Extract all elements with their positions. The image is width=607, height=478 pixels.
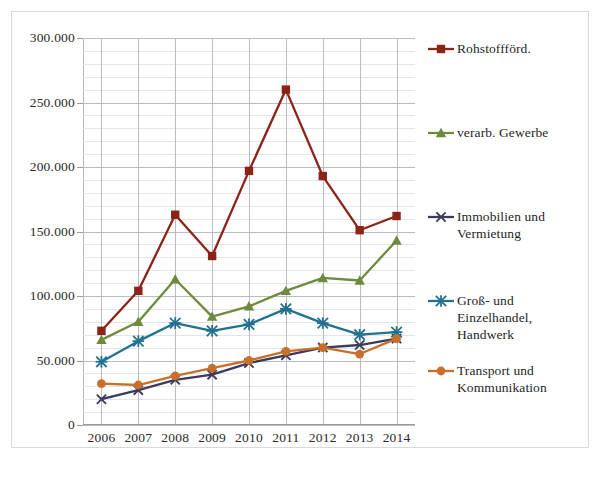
data-point-marker-asterisk [169,317,181,329]
data-point-marker-circle [318,343,327,352]
series-line [97,334,401,389]
y-axis-tick-mark [77,425,83,426]
data-point-marker-square [208,252,216,260]
gridline-major [83,425,415,426]
legend-label: verarb. Gewerbe [457,124,548,141]
x-axis-tick-label: 2011 [272,430,299,446]
data-point-marker-triangle [170,274,180,283]
data-point-marker-circle [97,379,106,388]
data-point-marker-triangle [96,335,106,344]
legend-item[interactable]: verarb. Gewerbe [428,124,548,141]
data-point-marker-asterisk [206,325,218,337]
legend-marker-square-icon [428,41,454,57]
legend-marker-cross-icon [428,209,454,225]
x-axis-tick-label: 2012 [309,430,337,446]
data-point-marker-square [134,287,142,295]
y-axis-tick-labels: 050.000100.000150.000200.000250.000300.0… [0,38,75,425]
legend-item[interactable]: Transport und Kommunikation [428,362,547,396]
chart-container: 050.000100.000150.000200.000250.000300.0… [0,0,607,478]
data-point-marker-asterisk [280,303,292,315]
y-axis-tick-label: 200.000 [30,159,75,175]
series-line [97,85,401,335]
legend-label: Immobilien und Vermietung [457,208,545,242]
x-axis-tick-labels: 200620072008200920102011201220132014 [83,430,415,452]
x-axis-tick-label: 2013 [346,430,374,446]
data-point-marker-square [319,172,327,180]
legend-label: Transport und Kommunikation [457,362,547,396]
y-axis-tick-mark [77,103,83,104]
x-axis-tick-label: 2006 [88,430,116,446]
legend-label: Rohstoffförd. [457,40,531,57]
x-axis-tick-label: 2007 [124,430,152,446]
data-point-marker-circle [437,367,446,376]
data-point-marker-square [282,85,290,93]
data-point-marker-asterisk [243,319,255,331]
y-axis-tick-label: 250.000 [30,95,75,111]
data-point-marker-circle [171,372,180,381]
y-axis-tick-mark [77,167,83,168]
data-point-marker-asterisk [435,295,447,307]
y-axis-tick-label: 100.000 [30,288,75,304]
y-axis-tick-label: 50.000 [37,353,75,369]
legend-marker-circle-icon [428,363,454,379]
y-axis-tick-label: 300.000 [30,30,75,46]
data-point-marker-asterisk [96,356,108,368]
data-point-marker-square [171,211,179,219]
data-point-marker-square [437,45,445,53]
data-point-marker-circle [392,334,401,343]
legend-marker-asterisk-icon [428,293,454,309]
y-axis-tick-label: 150.000 [30,224,75,240]
data-point-marker-asterisk [354,329,366,341]
legend-label: Groß- und Einzelhandel, Handwerk [457,292,532,343]
data-point-marker-circle [208,364,217,373]
x-axis-tick-label: 2008 [161,430,189,446]
data-point-marker-circle [355,350,364,359]
y-axis-tick-label: 0 [68,417,75,433]
legend-item[interactable]: Immobilien und Vermietung [428,208,545,242]
x-axis-tick-label: 2014 [383,430,411,446]
y-axis-tick-mark [77,296,83,297]
data-point-marker-square [392,212,400,220]
data-point-marker-square [355,226,363,234]
data-point-marker-circle [281,347,290,356]
y-axis-tick-mark [77,232,83,233]
legend-marker-triangle-icon [428,125,454,141]
legend-item[interactable]: Rohstoffförd. [428,40,531,57]
x-axis-tick-label: 2010 [235,430,263,446]
data-point-marker-asterisk [133,335,145,347]
data-point-marker-circle [245,356,254,365]
data-point-marker-triangle [391,235,401,244]
y-axis-tick-mark [77,38,83,39]
series-layer [83,38,415,425]
y-axis-tick-mark [77,361,83,362]
data-point-marker-asterisk [317,317,329,329]
data-point-marker-square [245,167,253,175]
legend-item[interactable]: Groß- und Einzelhandel, Handwerk [428,292,532,343]
data-point-marker-square [97,327,105,335]
data-point-marker-circle [134,381,143,390]
x-axis-tick-label: 2009 [198,430,226,446]
